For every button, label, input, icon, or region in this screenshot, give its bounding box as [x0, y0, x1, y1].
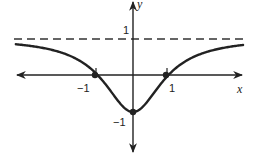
x-tick-label-one: 1	[169, 82, 175, 94]
point-y-intercept	[130, 109, 136, 115]
y-axis-label: y	[136, 0, 143, 11]
y-tick-label-one: 1	[123, 24, 129, 36]
point-x-intercept-neg	[92, 72, 98, 78]
function-curve	[16, 44, 243, 112]
y-tick-label-neg-one: −1	[113, 116, 126, 128]
x-axis-label: x	[236, 82, 243, 96]
function-graph: y 1 −1 1 x −1	[0, 0, 256, 156]
point-x-intercept-pos	[163, 72, 169, 78]
x-tick-label-neg-one: −1	[77, 82, 90, 94]
